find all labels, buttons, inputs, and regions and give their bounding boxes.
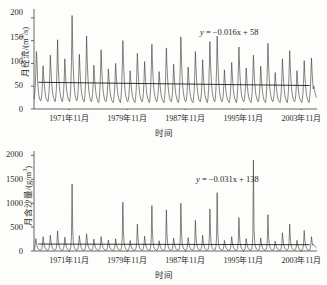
- trend-equation-bottom: y = −0.031x + 138: [196, 174, 259, 184]
- y-tick-bottom-2000: 2000: [6, 149, 23, 159]
- x-tick-label-top-2: 1987年11月: [165, 112, 205, 123]
- trend-equation-bottom-rhs: = −0.031x + 138: [200, 174, 259, 184]
- x-tick-label-bottom-1: 1979年11月: [107, 254, 147, 265]
- y-tick-top-150: 150: [10, 32, 23, 42]
- sediment-timeseries-svg: [26, 148, 318, 252]
- y-tick-bottom-1500: 1500: [6, 174, 23, 184]
- x-axis-title-top: 时间: [0, 126, 327, 138]
- x-tick-label-bottom-2: 1987年11月: [165, 254, 205, 265]
- y-tick-top-200: 200: [10, 7, 23, 17]
- trend-equation-top: y = −0.016x + 58: [200, 27, 259, 37]
- x-tick-label-top-3: 1995年11月: [223, 112, 263, 123]
- panel-monthly-runoff: 月径流/(m3/s) 200 150 100 50 0 y = −0.016x …: [0, 0, 327, 143]
- x-tick-label-bottom-3: 1995年11月: [223, 254, 263, 265]
- panel-monthly-sediment: 月含沙量/(g/m3) 2000 1500 1000 500 0 y = −0.…: [0, 142, 327, 285]
- x-tick-label-bottom-0: 1971年11月: [49, 254, 89, 265]
- x-tick-label-top-1: 1979年11月: [107, 112, 147, 123]
- trend-equation-top-rhs: = −0.016x + 58: [204, 27, 259, 37]
- x-tick-label-top-0: 1971年11月: [49, 112, 89, 123]
- y-tick-bottom-1000: 1000: [6, 198, 23, 208]
- y-tick-top-100: 100: [10, 56, 23, 66]
- x-axis-title-bottom: 时间: [0, 268, 327, 280]
- x-tick-labels-bottom: 1971年11月 1979年11月 1987年11月 1995年11月 2003…: [0, 254, 327, 267]
- y-tick-top-50: 50: [15, 80, 24, 90]
- y-tick-bottom-500: 500: [10, 222, 23, 232]
- runoff-timeseries-svg: [26, 6, 318, 110]
- x-tick-label-bottom-4: 2003年11月: [281, 254, 321, 265]
- x-tick-labels-top: 1971年11月 1979年11月 1987年11月 1995年11月 2003…: [0, 112, 327, 125]
- x-tick-label-top-4: 2003年11月: [281, 112, 321, 123]
- figure-two-panel-timeseries: 月径流/(m3/s) 200 150 100 50 0 y = −0.016x …: [0, 0, 327, 285]
- plot-area-bottom: 2000 1500 1000 500 0: [26, 148, 318, 252]
- plot-area-top: 200 150 100 50 0: [26, 6, 318, 110]
